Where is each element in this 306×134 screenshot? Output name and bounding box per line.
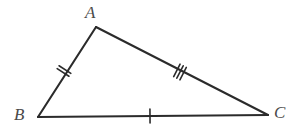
triangle-side-ab [38,27,96,117]
triangle-edges-group [38,27,268,117]
congruence-tick-marks-group [57,64,186,123]
vertex-label-c: C [274,104,285,121]
vertex-label-a: A [85,4,95,21]
geometry-figure-canvas: A B C [0,0,306,134]
tick-mark-group-ac [174,64,187,80]
triangle-diagram-svg [0,0,306,134]
vertex-label-b: B [14,106,24,123]
triangle-side-bc [38,115,268,117]
triangle-side-ac [96,27,268,115]
